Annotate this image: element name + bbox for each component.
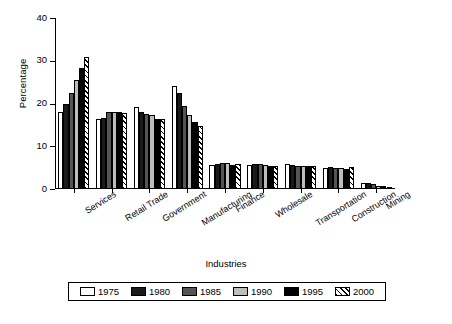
- y-tick-label: 30: [36, 54, 47, 65]
- legend-item-1995: 1995: [284, 286, 323, 297]
- bar-group: [209, 18, 240, 189]
- bar-group: [96, 18, 127, 189]
- legend-swatch-1980: [131, 287, 146, 297]
- y-tick: 40: [50, 18, 55, 19]
- y-axis-title: Percentage: [17, 14, 28, 154]
- x-tick-label: Services: [83, 189, 118, 216]
- bar-group: [134, 18, 165, 189]
- legend-swatch-2000: [335, 287, 350, 297]
- bar-group: [285, 18, 316, 189]
- legend: 197519801985199019952000: [68, 282, 386, 301]
- x-tick-label: Wholesale: [273, 189, 314, 220]
- legend-item-1975: 1975: [80, 286, 119, 297]
- legend-item-2000: 2000: [335, 286, 374, 297]
- legend-item-1990: 1990: [233, 286, 272, 297]
- y-tick-label: 0: [42, 183, 47, 194]
- x-axis-labels: ServicesRetail TradeGovernmentManufactur…: [55, 189, 395, 251]
- bar-group: [323, 18, 354, 189]
- bar-manufacturing-2000: [198, 126, 203, 189]
- bar-government-2000: [160, 119, 165, 189]
- y-tick-label: 40: [36, 12, 47, 23]
- bar-group: [361, 18, 392, 189]
- legend-swatch-1985: [182, 287, 197, 297]
- legend-label: 2000: [353, 286, 374, 297]
- bar-retail-trade-2000: [122, 113, 127, 189]
- y-tick-label: 20: [36, 97, 47, 108]
- legend-swatch-1995: [284, 287, 299, 297]
- legend-swatch-1975: [80, 287, 95, 297]
- bar-wholesale-2000: [273, 166, 278, 190]
- legend-item-1985: 1985: [182, 286, 221, 297]
- bar-finance-2000: [235, 164, 240, 189]
- bar-group: [247, 18, 278, 189]
- y-tick-label: 10: [36, 140, 47, 151]
- bar-construction-2000: [349, 167, 354, 189]
- bar-group: [172, 18, 203, 189]
- legend-label: 1975: [98, 286, 119, 297]
- y-axis-line: [55, 18, 56, 189]
- y-tick: 10: [50, 146, 55, 147]
- bar-group: [58, 18, 89, 189]
- legend-label: 1990: [251, 286, 272, 297]
- legend-label: 1995: [302, 286, 323, 297]
- bar-chart: Percentage 010203040 ServicesRetail Trad…: [0, 0, 452, 324]
- legend-label: 1985: [200, 286, 221, 297]
- legend-label: 1980: [149, 286, 170, 297]
- bar-transportation-2000: [311, 166, 316, 189]
- legend-swatch-1990: [233, 287, 248, 297]
- legend-item-1980: 1980: [131, 286, 170, 297]
- y-tick: 30: [50, 61, 55, 62]
- y-tick: 20: [50, 104, 55, 105]
- x-axis-title: Industries: [0, 258, 452, 269]
- bar-services-2000: [84, 57, 89, 189]
- plot-area: 010203040: [55, 18, 395, 189]
